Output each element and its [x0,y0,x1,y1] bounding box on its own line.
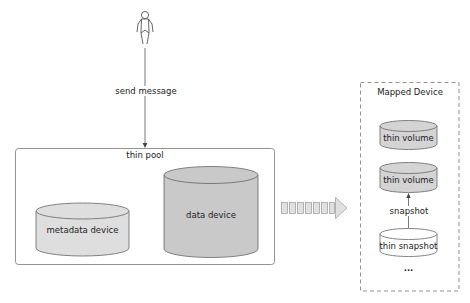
thin-snapshot-label: thin snapshot [378,241,439,251]
diagram-canvas [0,0,470,303]
thin-pool-title: thin pool [115,150,175,160]
dashed-block-arrow-icon [282,198,348,219]
person-icon [137,11,153,44]
ellipsis-label: ... [390,263,427,273]
metadata-device-label: metadata device [36,225,129,235]
thin-volume-label-2: thin volume [380,175,437,185]
send-message-arrow [143,48,148,148]
data-device-label: data device [164,210,258,220]
send-message-label: send message [112,86,180,96]
thin-volume-label-1: thin volume [380,133,437,143]
snapshot-label: snapshot [383,206,435,216]
mapped-device-title: Mapped Device [361,87,459,97]
